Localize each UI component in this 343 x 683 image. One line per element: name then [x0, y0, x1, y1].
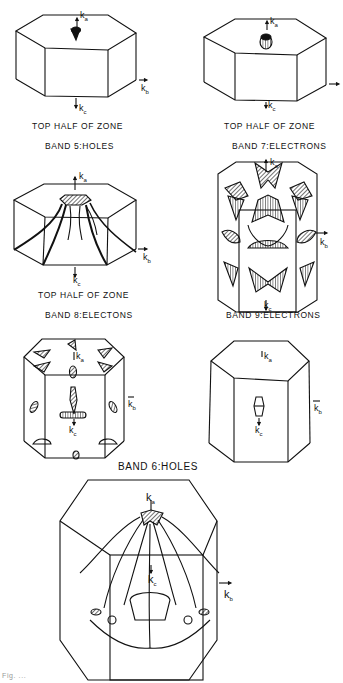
axis-ka-label: ka — [80, 10, 88, 22]
axis-kb-label: kb — [128, 399, 136, 411]
axis-kb-label: kb — [141, 83, 149, 95]
panel1-caption-band: BAND 5:HOLES — [45, 141, 114, 151]
panel2-caption-band: BAND 7:ELECTRONS — [232, 141, 327, 151]
axis-kb-label: kb — [143, 252, 151, 264]
panel-band9-electrons — [218, 160, 327, 312]
panel-band5-holes — [16, 15, 147, 108]
band6-shared-caption: BAND 6:HOLES — [118, 461, 198, 472]
axis-kc-label: kc — [73, 275, 81, 287]
axis-ka-label: ka — [264, 351, 272, 363]
brillouin-zone-diagram — [0, 0, 343, 683]
axis-kc-label: kc — [268, 100, 276, 112]
axis-ka-label: ka — [270, 16, 278, 28]
axis-ka-label: ka — [79, 171, 87, 183]
panel2-caption-zone: TOP HALF OF ZONE — [224, 121, 315, 131]
footer-fragment: Fig. ... — [2, 672, 26, 679]
axis-kb-label: kb — [320, 237, 328, 249]
axis-kc-label: kc — [264, 300, 272, 312]
axis-kc-label: kc — [79, 103, 87, 115]
axis-kc-label: kc — [69, 425, 77, 437]
panel-band7-electrons — [204, 19, 339, 108]
panel3-caption-band: BAND 8:ELECTONS — [45, 310, 133, 320]
axis-ka-label: ka — [270, 157, 278, 169]
panel1-caption-zone: TOP HALF OF ZONE — [32, 121, 123, 131]
axis-kc-label: kc — [255, 425, 263, 437]
axis-ka-label: ka — [76, 351, 84, 363]
panel3-caption-zone: TOP HALF OF ZONE — [38, 290, 129, 300]
axis-kb-label: kb — [224, 588, 233, 602]
axis-kb-label: kb — [314, 403, 322, 415]
panel-band8-electrons — [14, 177, 147, 277]
panel-band6-holes-large — [60, 480, 231, 680]
axis-kc-label: kc — [148, 573, 157, 587]
axis-ka-label: ka — [146, 491, 155, 505]
panel4-caption-band: BAND 9:ELECTRONS — [226, 310, 321, 320]
